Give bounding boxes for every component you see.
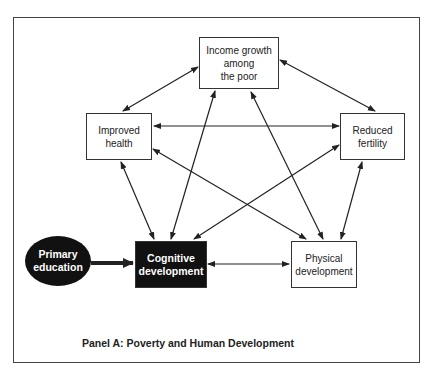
edge-health-cognitive <box>121 162 154 239</box>
edge-fertility-cognitive <box>194 145 339 239</box>
panel-caption: Panel A: Poverty and Human Development <box>82 337 294 349</box>
node-primary-education: Primary education <box>25 236 91 286</box>
edge-income-physical <box>251 92 323 239</box>
node-physical-development: Physical development <box>291 241 357 288</box>
edge-income-cognitive <box>171 91 215 239</box>
node-income-growth: Income growth among the poor <box>199 37 279 89</box>
edge-health-physical <box>153 149 306 239</box>
edge-income-fertility <box>280 60 375 111</box>
edge-fertility-physical <box>341 162 362 239</box>
node-improved-health: Improved health <box>86 113 152 160</box>
edge-income-health <box>123 67 198 111</box>
node-reduced-fertility: Reduced fertility <box>340 113 405 160</box>
node-cognitive-development: Cognitive development <box>135 241 207 288</box>
